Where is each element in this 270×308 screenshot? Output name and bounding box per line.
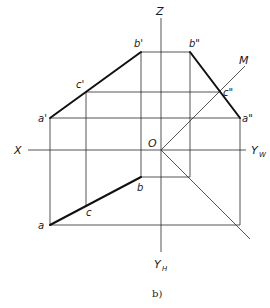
x-axis-label: X xyxy=(13,144,22,157)
z-axis-label: Z xyxy=(155,5,164,18)
segment-projections xyxy=(50,52,240,225)
figure-caption: b) xyxy=(152,288,162,299)
projection-diagram: Z X O M Y W Y H b' b" c' c" a' a" b c a … xyxy=(0,0,270,308)
label-c-prime: c' xyxy=(76,79,84,90)
projection-lines xyxy=(50,52,240,225)
yw-axis-label: Y W xyxy=(251,144,267,159)
yw-subscript: W xyxy=(259,151,267,159)
miter-label: M xyxy=(239,54,249,67)
label-c-double-prime: c" xyxy=(223,87,233,98)
label-a-prime: a' xyxy=(38,113,47,124)
origin-label: O xyxy=(148,137,157,150)
segment-side-ab xyxy=(190,52,240,118)
yh-letter: Y xyxy=(154,258,162,271)
label-a-double-prime: a" xyxy=(242,113,253,124)
miter-line-lower xyxy=(161,150,250,239)
yw-letter: Y xyxy=(251,144,259,157)
label-c: c xyxy=(86,207,92,218)
segment-top-ab xyxy=(50,177,141,225)
segment-front-ab xyxy=(50,52,141,118)
label-b-double-prime: b" xyxy=(189,38,200,49)
label-b: b xyxy=(137,182,143,193)
yh-subscript: H xyxy=(162,265,168,273)
label-a: a xyxy=(38,220,44,231)
yh-axis-label: Y H xyxy=(154,258,168,273)
label-b-prime: b' xyxy=(134,38,143,49)
